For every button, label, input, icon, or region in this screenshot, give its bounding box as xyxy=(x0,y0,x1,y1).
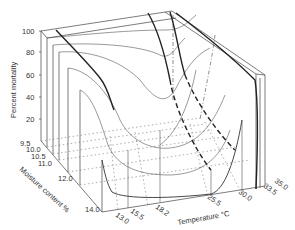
z-tick-40: 40 xyxy=(26,93,34,102)
z-tick-60: 60 xyxy=(26,71,34,80)
moisture-axis: 9.5 10.0 10.5 11.0 12.0 14.0 Moisture co… xyxy=(18,139,100,215)
temp-tick: 18.2 xyxy=(154,202,171,218)
z-tick-80: 80 xyxy=(26,48,34,57)
mortality-surface-chart: 100 80 60 40 20 Percent mortality xyxy=(0,0,295,230)
z-tick-100: 100 xyxy=(22,27,35,36)
box-frame xyxy=(41,11,265,212)
temp-tick: 25.5 xyxy=(206,192,223,208)
moisture-axis-label: Moisture content % xyxy=(18,165,72,215)
temp-tick: 15.5 xyxy=(129,206,146,222)
temperature-axis-label: Temperature °C xyxy=(177,209,231,227)
temp-tick: 30.0 xyxy=(237,187,254,203)
temperature-axis: 13.0 15.5 18.2 25.5 30.0 33.5 35.0 Tempe… xyxy=(114,176,290,227)
surface-curves-temp xyxy=(56,12,257,189)
z-axis: 100 80 60 40 20 Percent mortality xyxy=(9,27,41,141)
z-tick-20: 20 xyxy=(26,115,34,124)
moisture-tick: 11.0 xyxy=(38,159,52,168)
moisture-tick: 12.0 xyxy=(58,174,73,183)
z-axis-label: Percent mortality xyxy=(9,61,18,118)
moisture-tick: 14.0 xyxy=(85,205,100,214)
